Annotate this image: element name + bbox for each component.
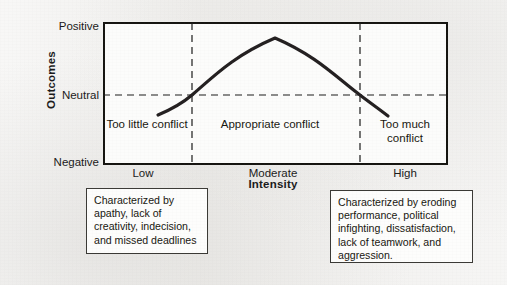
y-tick-neutral: Neutral xyxy=(3,89,99,101)
callout-too-much-conflict: Characterized by eroding performance, po… xyxy=(330,190,473,263)
x-tick-high: High xyxy=(360,167,450,180)
zone-label-too-much-conflict: Too much conflict xyxy=(364,118,446,145)
x-tick-low: Low xyxy=(98,167,188,180)
conflict-intensity-outcomes-figure: Outcomes Positive Neutral Negative Low M… xyxy=(0,0,507,285)
y-tick-positive: Positive xyxy=(3,20,99,32)
zone-label-appropriate-conflict: Appropriate conflict xyxy=(215,118,325,132)
x-axis-title: Intensity xyxy=(233,178,313,190)
zone-label-too-little-conflict: Too little conflict xyxy=(104,118,190,132)
callout-too-little-conflict: Characterized by apathy, lack of creativ… xyxy=(86,188,208,254)
y-tick-negative: Negative xyxy=(3,156,99,168)
y-axis-tick-labels: Positive Neutral Negative xyxy=(0,0,99,285)
